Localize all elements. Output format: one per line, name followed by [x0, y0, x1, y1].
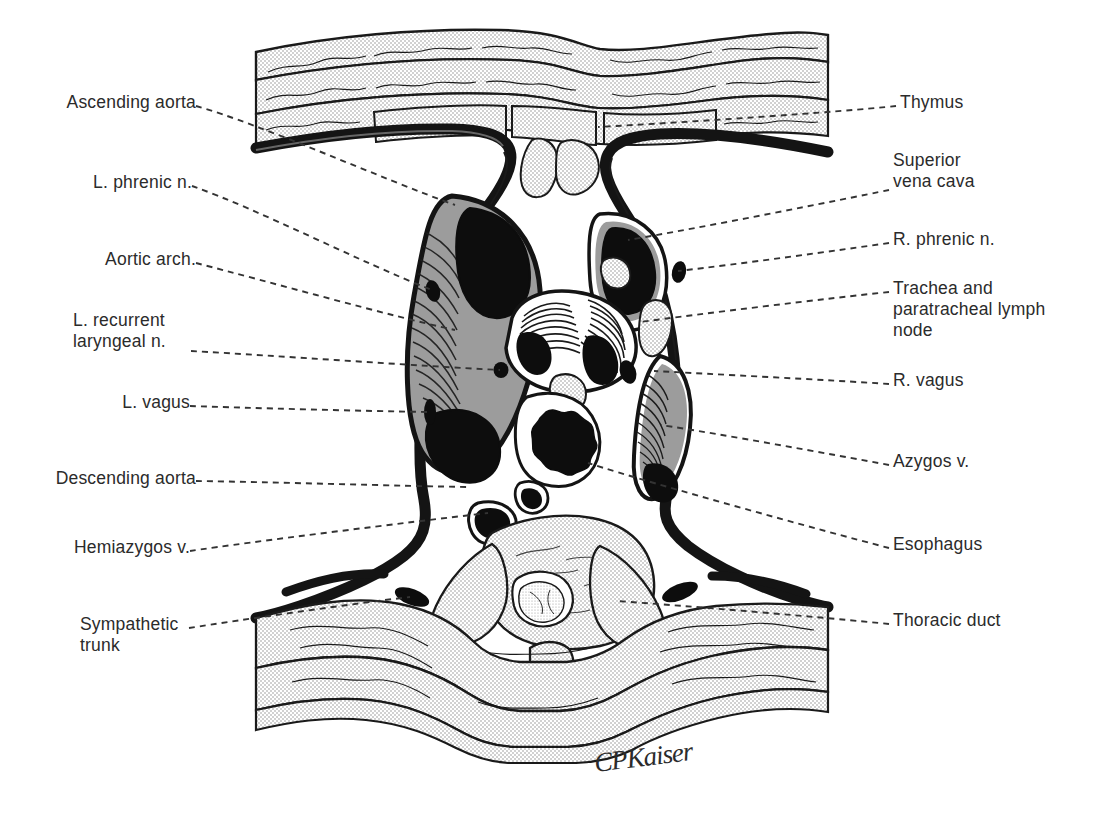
leader-azygos-v: [661, 425, 889, 465]
leader-hemiazygos-v: [190, 513, 488, 551]
leader-l-vagus: [190, 406, 430, 412]
label-aortic-arch: Aortic arch.: [0, 249, 196, 270]
artwork-body-wall: [256, 30, 828, 763]
label-l-recurrent-laryngeal-n: L. recurrent laryngeal n.: [0, 310, 191, 352]
label-l-vagus: L. vagus: [0, 392, 190, 413]
label-thymus: Thymus: [900, 92, 1090, 113]
leader-r-phrenic-n: [678, 243, 889, 271]
right-sympathetic-dot: [659, 577, 700, 606]
l-recurrent-laryngeal-dot: [494, 362, 509, 378]
leader-trachea-paratracheal: [640, 292, 889, 322]
label-esophagus: Esophagus: [893, 534, 1083, 555]
leader-descending-aorta: [196, 481, 470, 487]
label-descending-aorta: Descending aorta: [0, 468, 196, 489]
leader-l-phrenic-n: [192, 186, 432, 290]
label-trachea-and-paratracheal-lymph-node: Trachea and paratracheal lymph node: [893, 278, 1093, 341]
label-hemiazygos-v: Hemiazygos v.: [0, 537, 190, 558]
label-r-phrenic-n: R. phrenic n.: [893, 229, 1088, 250]
label-azygos-v: Azygos v.: [893, 451, 1083, 472]
leader-superior-vena-cava: [628, 190, 889, 240]
label-superior-vena-cava: Superior vena cava: [893, 150, 1088, 192]
label-r-vagus: R. vagus: [893, 370, 1083, 391]
label-ascending-aorta: Ascending aorta: [0, 92, 196, 113]
r-phrenic-nerve-dot: [670, 260, 688, 284]
label-sympathetic-trunk: Sympathetic trunk: [0, 614, 189, 656]
label-l-phrenic-n: L. phrenic n.: [0, 172, 192, 193]
leader-r-vagus: [654, 371, 889, 384]
label-thoracic-duct: Thoracic duct: [893, 610, 1083, 631]
